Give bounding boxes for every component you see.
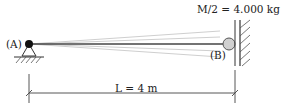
length-label: L = 4 m	[115, 83, 157, 94]
beam-diagram: M/2 = 4.000 kg (A) (B) L = 4 m	[0, 0, 285, 105]
point-b-label: (B)	[210, 50, 226, 61]
wall-hatch-icon	[240, 20, 250, 66]
pin-a-icon	[25, 40, 33, 48]
point-a-label: (A)	[6, 39, 22, 50]
mass-label: M/2 = 4.000 kg	[197, 4, 280, 15]
